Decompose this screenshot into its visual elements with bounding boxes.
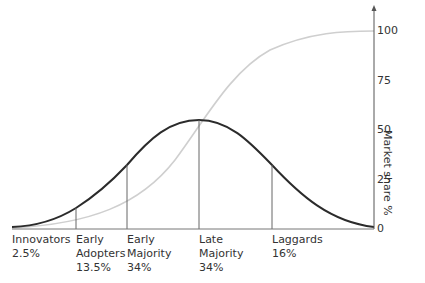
category-late-majority-name-2: Majority [199,247,243,261]
category-early-majority-name-2: Majority [127,247,171,261]
category-late-majority: Late Majority 34% [199,233,243,275]
y-axis-arrow-icon [372,5,377,11]
category-early-adopters-name-2: Adopters [76,247,125,261]
category-late-majority-name-1: Late [199,233,243,247]
s-curve-market-share [12,31,374,228]
category-laggards-name: Laggards [272,233,323,247]
category-early-majority-name-1: Early [127,233,171,247]
y-tick-100: 100 [377,25,398,37]
category-early-majority: Early Majority 34% [127,233,171,275]
category-early-majority-share: 34% [127,261,171,275]
category-late-majority-share: 34% [199,261,243,275]
category-early-adopters-name-1: Early [76,233,125,247]
y-tick-0: 0 [377,223,384,235]
category-laggards-share: 16% [272,247,323,261]
y-tick-75: 75 [377,75,391,87]
category-laggards: Laggards 16% [272,233,323,261]
category-innovators-share: 2.5% [12,247,70,261]
category-innovators: Innovators 2.5% [12,233,70,261]
category-early-adopters: Early Adopters 13.5% [76,233,125,275]
category-innovators-name: Innovators [12,233,70,247]
y-axis-label: Market share % [381,130,394,216]
category-early-adopters-share: 13.5% [76,261,125,275]
